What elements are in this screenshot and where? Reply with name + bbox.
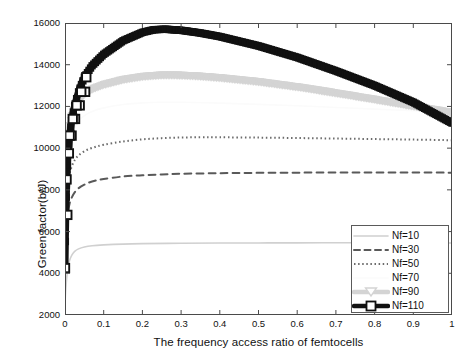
x-tick-label: 1	[438, 318, 466, 329]
legend-label: Nf=70	[390, 271, 419, 285]
legend-line-swatch	[352, 257, 390, 271]
legend-item-nf-90[interactable]: Nf=90	[352, 285, 448, 299]
x-tick-label: 0.6	[283, 318, 311, 329]
legend-item-nf-70[interactable]: Nf=70	[352, 271, 448, 285]
legend-label: Nf=110	[390, 299, 424, 313]
x-tick-label: 0.4	[206, 318, 234, 329]
legend-item-nf-110[interactable]: Nf=110	[352, 299, 448, 313]
x-tick-label: 0.9	[399, 318, 427, 329]
x-tick-label: 0	[51, 318, 79, 329]
x-tick-label: 0.5	[245, 318, 273, 329]
x-tick-label: 0.7	[322, 318, 350, 329]
legend-line-swatch	[352, 271, 390, 285]
y-tick-label: 16000	[34, 17, 60, 28]
y-tick-label: 8000	[39, 184, 60, 195]
legend-line-swatch	[352, 229, 390, 243]
legend-item-nf-10[interactable]: Nf=10	[352, 229, 448, 243]
legend-label: Nf=10	[390, 229, 419, 243]
legend-item-nf-30[interactable]: Nf=30	[352, 243, 448, 257]
legend-line-swatch	[352, 285, 390, 299]
figure: Green factor(b/J) 2000400060008000100001…	[0, 0, 474, 360]
y-tick-label: 14000	[34, 59, 60, 70]
y-tick-label: 6000	[39, 226, 60, 237]
x-axis-label: The frequency access ratio of femtocells	[65, 336, 452, 348]
y-tick-label: 4000	[39, 267, 60, 278]
legend-line-swatch	[352, 243, 390, 257]
legend-item-nf-50[interactable]: Nf=50	[352, 257, 448, 271]
x-axis-tick-labels: 00.10.20.30.40.50.60.70.80.91	[0, 318, 474, 334]
series-line-nf-70	[65, 102, 452, 229]
x-tick-label: 0.8	[361, 318, 389, 329]
legend-label: Nf=30	[390, 243, 419, 257]
x-tick-label: 0.1	[90, 318, 118, 329]
y-axis-tick-labels: 200040006000800010000120001400016000	[0, 0, 60, 360]
y-tick-label: 10000	[34, 142, 60, 153]
legend-label: Nf=50	[390, 257, 419, 271]
y-tick-label: 12000	[34, 100, 60, 111]
legend[interactable]: Nf=10Nf=30Nf=50Nf=70Nf=90Nf=110	[351, 225, 449, 313]
legend-label: Nf=90	[390, 285, 419, 299]
x-tick-label: 0.2	[128, 318, 156, 329]
x-tick-label: 0.3	[167, 318, 195, 329]
legend-line-swatch	[352, 299, 390, 313]
